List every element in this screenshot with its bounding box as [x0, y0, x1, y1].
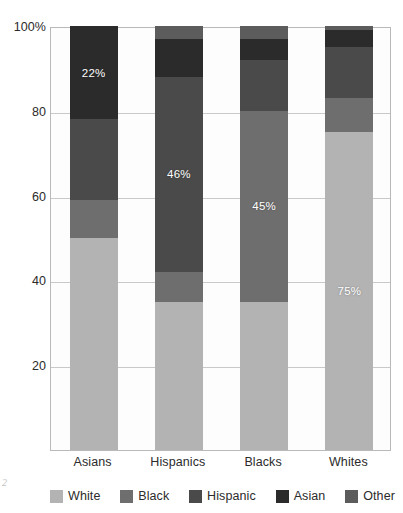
x-axis-tick-label: Asians [48, 455, 138, 469]
legend-label: White [68, 489, 100, 503]
segment-white[interactable] [155, 302, 203, 450]
bar-blacks[interactable]: 45% [240, 26, 288, 450]
segment-asian[interactable]: 22% [70, 26, 118, 119]
segment-black[interactable]: 45% [240, 111, 288, 302]
bar-whites[interactable]: 75% [325, 26, 373, 450]
segment-hispanic[interactable] [240, 60, 288, 111]
segment-black[interactable] [155, 272, 203, 302]
legend-item-asian[interactable]: Asian [276, 489, 326, 503]
legend-label: Hispanic [207, 489, 256, 503]
x-axis-tick-label: Whites [303, 455, 393, 469]
segment-black[interactable] [325, 98, 373, 132]
segment-value-label: 45% [240, 200, 288, 212]
chart-legend: WhiteBlackHispanicAsianOther [50, 487, 395, 505]
segment-hispanic[interactable] [70, 119, 118, 200]
legend-swatch-icon [276, 490, 289, 503]
segment-asian[interactable] [240, 39, 288, 60]
plot-area: 22%46%45%75% [50, 27, 391, 451]
y-axis-tick-label: 100% [0, 20, 46, 34]
segment-black[interactable] [70, 200, 118, 238]
segment-value-label: 22% [70, 67, 118, 79]
segment-hispanic[interactable] [325, 47, 373, 98]
segment-other[interactable] [325, 26, 373, 30]
page-number-artifact: 2 [2, 477, 7, 488]
legend-label: Black [138, 489, 169, 503]
segment-other[interactable] [155, 26, 203, 39]
legend-swatch-icon [120, 490, 133, 503]
legend-swatch-icon [50, 490, 63, 503]
x-axis-tick-label: Hispanics [133, 455, 223, 469]
y-axis-tick-label: 20 [0, 359, 46, 373]
y-axis-tick-label: 40 [0, 274, 46, 288]
segment-value-label: 46% [155, 168, 203, 180]
x-axis-tick-label: Blacks [218, 455, 308, 469]
legend-swatch-icon [345, 490, 358, 503]
segment-asian[interactable] [325, 30, 373, 47]
legend-item-white[interactable]: White [50, 489, 100, 503]
legend-item-hispanic[interactable]: Hispanic [189, 489, 256, 503]
legend-item-other[interactable]: Other [345, 489, 395, 503]
segment-white[interactable] [240, 302, 288, 450]
segment-value-label: 75% [325, 285, 373, 297]
legend-label: Asian [294, 489, 326, 503]
bar-hispanics[interactable]: 46% [155, 26, 203, 450]
legend-label: Other [363, 489, 395, 503]
segment-white[interactable] [70, 238, 118, 450]
legend-item-black[interactable]: Black [120, 489, 169, 503]
bar-asians[interactable]: 22% [70, 26, 118, 450]
y-axis-tick-label: 80 [0, 105, 46, 119]
legend-swatch-icon [189, 490, 202, 503]
segment-other[interactable] [240, 26, 288, 39]
segment-white[interactable]: 75% [325, 132, 373, 450]
stacked-bar-chart-figure: 100%80604020 22%46%45%75% AsiansHispanic… [0, 0, 403, 513]
segment-hispanic[interactable]: 46% [155, 77, 203, 272]
segment-asian[interactable] [155, 39, 203, 77]
y-axis-tick-label: 60 [0, 190, 46, 204]
